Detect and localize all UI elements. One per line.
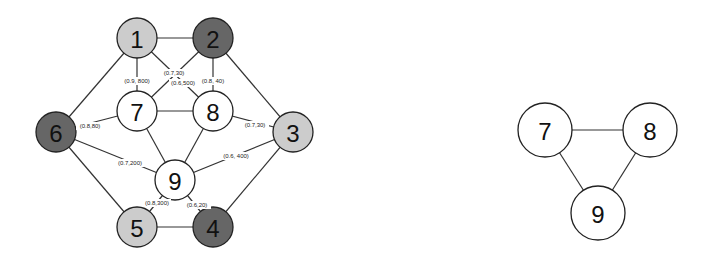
node-label: 8 — [206, 99, 219, 126]
node-label: 3 — [286, 120, 299, 147]
node-label: 8 — [643, 118, 656, 145]
node-label: 9 — [168, 168, 181, 195]
left-graph-edge-label-5-9: (0.8,300) — [145, 200, 169, 206]
graph-diagram: 123456789 (0.9, 800)(0.7,30)(0.6,500)(0.… — [0, 0, 712, 265]
left-graph-node-5: 5 — [117, 207, 157, 247]
left-graph-node-4: 4 — [193, 207, 233, 247]
left-graph-edge-label-3-9: (0.6, 400) — [223, 153, 249, 159]
left-graph-node-7: 7 — [117, 91, 157, 131]
left-graph-node-8: 8 — [193, 91, 233, 131]
left-graph-node-1: 1 — [117, 18, 157, 58]
left-graph-nodes: 123456789 — [36, 18, 313, 247]
right-graph-node-8: 8 — [623, 103, 677, 157]
left-graph-edge-label-6-7: (0.8,80) — [80, 123, 101, 129]
left-graph-edge-label-2-8: (0.8, 40) — [202, 78, 224, 84]
left-graph-edge-label-1-8: (0.6,500) — [171, 80, 195, 86]
left-graph-edge-label-4-9: (0.6,20) — [187, 202, 208, 208]
node-label: 6 — [49, 120, 62, 147]
node-label: 7 — [538, 118, 551, 145]
left-graph-node-6: 6 — [36, 112, 76, 152]
left-graph-edge-label-2-7: (0.7,30) — [164, 70, 185, 76]
left-graph-node-9: 9 — [155, 160, 195, 200]
node-label: 4 — [206, 215, 219, 242]
left-graph-edge-label-1-7: (0.9, 800) — [124, 78, 150, 84]
left-graph-node-2: 2 — [193, 18, 233, 58]
right-graph-node-7: 7 — [518, 103, 572, 157]
node-label: 2 — [206, 26, 219, 53]
right-graph-nodes: 789 — [518, 103, 677, 240]
left-graph-node-3: 3 — [273, 112, 313, 152]
node-label: 1 — [130, 26, 143, 53]
node-label: 5 — [130, 215, 143, 242]
node-label: 9 — [591, 201, 604, 228]
left-graph-edge-label-3-8: (0.7,30) — [245, 122, 266, 128]
left-graph-edge-label-6-9: (0.7,200) — [118, 160, 142, 166]
right-graph-node-9: 9 — [571, 186, 625, 240]
node-label: 7 — [130, 99, 143, 126]
